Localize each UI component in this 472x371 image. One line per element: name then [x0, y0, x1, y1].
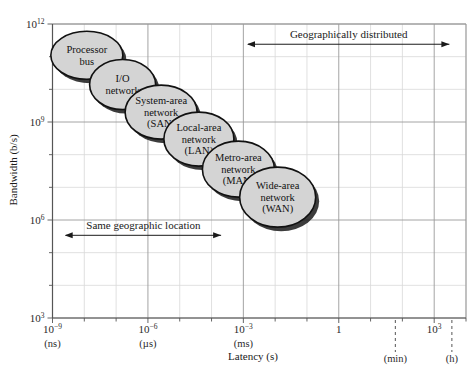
ellipse-label-line: Metro-area — [215, 152, 262, 163]
bandwidth-latency-chart: (min)(h) Geographically distributedSame … — [0, 0, 472, 371]
x-marker-label: (h) — [446, 353, 459, 365]
ellipse-label-line: Processor — [66, 44, 107, 55]
x-tick-unit: (ns) — [44, 338, 61, 350]
ellipse-label-line: I/O — [116, 73, 130, 84]
x-tick-unit: (µs) — [139, 338, 157, 350]
ellipse-label-line: System-area — [135, 95, 187, 106]
ellipse-label-line: (WAN) — [262, 203, 293, 215]
x-tick-unit: (ms) — [234, 338, 254, 350]
ellipse-label-line: network — [260, 192, 295, 203]
ellipse-label-line: bus — [80, 56, 95, 67]
ellipse-label-line: Wide-area — [256, 180, 300, 191]
x-tick-label: 1 — [336, 323, 342, 335]
chart-canvas: (min)(h) Geographically distributedSame … — [0, 0, 472, 371]
ellipse-label-line: network — [221, 164, 256, 175]
annotation-label: Geographically distributed — [290, 28, 408, 40]
annotation-label: Same geographic location — [86, 219, 201, 231]
ellipse-label-line: network — [144, 107, 179, 118]
ellipse-label-line: Local-area — [176, 122, 221, 133]
x-axis-title: Latency (s) — [228, 350, 278, 363]
ellipse-label-line: network — [182, 134, 217, 145]
y-axis-title: Bandwidth (b/s) — [7, 134, 20, 206]
x-marker-label: (min) — [384, 353, 408, 365]
